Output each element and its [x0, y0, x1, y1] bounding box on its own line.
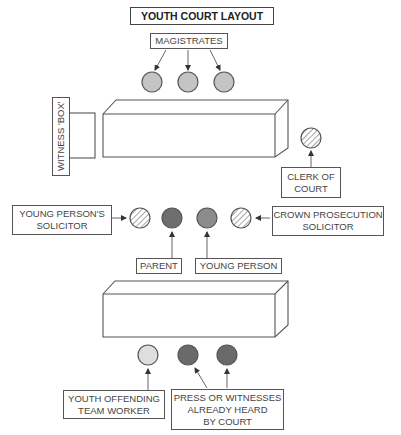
clerk-label: CLERK OF COURT: [281, 167, 341, 198]
witness-box-shape: [69, 113, 95, 158]
press-label: PRESS OR WITNESSES ALREADY HEARD BY COUR…: [171, 389, 284, 430]
yp-solicitor-seat: [130, 208, 150, 228]
press-seat: [217, 345, 237, 365]
cps-label: CROWN PROSECUTION SOLICITOR: [272, 206, 384, 236]
magistrates-bench: [103, 100, 288, 157]
cps-seat: [231, 208, 251, 228]
diagram-title: YOUTH COURT LAYOUT: [130, 7, 274, 25]
parent-seat: [162, 208, 182, 228]
magistrate-seats: [142, 72, 234, 92]
magistrate-seat: [142, 72, 162, 92]
young-person-label: YOUNG PERSON: [195, 258, 282, 274]
magistrate-seat: [178, 72, 198, 92]
magistrate-arrows: [155, 50, 220, 70]
bottom-row-seats: [138, 345, 237, 365]
clerk-seat: [301, 128, 321, 148]
yot-worker-seat: [138, 345, 158, 365]
young-person-seat: [197, 208, 217, 228]
magistrate-seat: [214, 72, 234, 92]
parent-label: PARENT: [136, 258, 182, 274]
yp-solicitor-label: YOUNG PERSON'S SOLICITOR: [12, 205, 112, 235]
magistrates-label: MAGISTRATES: [150, 33, 228, 49]
press-seat: [178, 345, 198, 365]
yot-worker-label: YOUTH OFFENDING TEAM WORKER: [63, 390, 165, 419]
witness-box-label: WITNESS 'BOX': [52, 97, 70, 176]
defence-bench: [103, 281, 288, 337]
middle-row-seats: [130, 208, 251, 228]
